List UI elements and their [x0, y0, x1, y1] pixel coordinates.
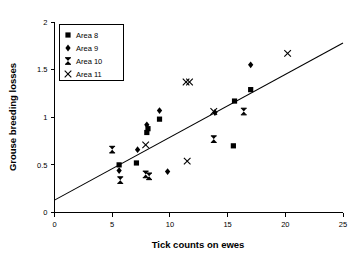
- series-area-11: [142, 50, 291, 164]
- x-axis-title: Tick counts on ewes: [152, 239, 245, 250]
- legend-marker-area-8: [65, 32, 70, 37]
- legend-label-area-11: Area 11: [76, 70, 102, 79]
- data-point: [116, 167, 121, 174]
- data-point: [134, 160, 139, 165]
- data-point: [211, 136, 217, 143]
- data-point: [186, 79, 193, 86]
- legend-label-area-10: Area 10: [76, 57, 102, 66]
- x-tick-label: 15: [223, 220, 231, 229]
- data-points: [109, 50, 291, 183]
- x-tick-label: 20: [281, 220, 289, 229]
- data-point: [165, 168, 170, 175]
- data-point: [248, 61, 253, 68]
- x-tick-label: 0: [52, 220, 56, 229]
- data-point: [183, 79, 190, 86]
- data-point: [117, 177, 123, 184]
- legend: Area 8Area 9Area 10Area 11: [59, 24, 123, 80]
- x-tick-label: 5: [110, 220, 114, 229]
- data-point: [117, 162, 122, 167]
- legend-label-area-8: Area 8: [76, 31, 98, 40]
- y-axis-title: Grouse breeding losses: [7, 63, 18, 171]
- legend-label-area-9: Area 9: [76, 44, 98, 53]
- x-tick-label: 25: [339, 220, 347, 229]
- y-tick-label: 2: [43, 18, 47, 27]
- data-point: [248, 87, 253, 92]
- data-point: [232, 98, 237, 103]
- x-tick-label: 10: [166, 220, 174, 229]
- data-point: [184, 158, 191, 165]
- data-point: [241, 108, 247, 115]
- plot-canvas: 00.511.52 0510152025 Area 8Area 9Area 10…: [0, 0, 352, 257]
- series-area-10: [109, 108, 246, 183]
- series-area-9: [116, 61, 253, 174]
- data-point: [231, 143, 236, 148]
- y-tick-label: 1: [43, 113, 47, 122]
- data-point: [135, 146, 140, 153]
- data-point: [157, 107, 162, 114]
- scatter-plot-figure: 00.511.52 0510152025 Area 8Area 9Area 10…: [0, 0, 352, 257]
- data-point: [109, 146, 115, 153]
- y-axis-ticks: 00.511.52: [37, 18, 54, 218]
- data-point: [157, 117, 162, 122]
- y-tick-label: 0.5: [37, 161, 47, 170]
- data-point: [284, 50, 291, 57]
- data-point: [142, 142, 149, 149]
- y-tick-label: 0: [43, 208, 47, 217]
- x-axis-ticks: 0510152025: [52, 213, 347, 229]
- y-tick-label: 1.5: [37, 65, 47, 74]
